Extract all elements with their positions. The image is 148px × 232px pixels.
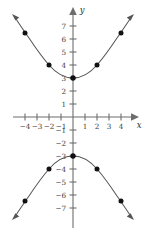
upper-right-arrow-icon <box>127 14 134 21</box>
y-axis-label: y <box>79 5 85 15</box>
x-tick-label-2: 2 <box>95 122 100 131</box>
lower-right-arrow-icon <box>127 213 134 220</box>
y-tick-label--5: −5 <box>55 178 66 187</box>
y-tick-label--6: −6 <box>55 191 66 200</box>
y-tick-label-7: 7 <box>61 22 66 31</box>
y-tick-label-4: 4 <box>61 61 66 70</box>
data-point-upper--4 <box>23 30 28 35</box>
y-tick-label-2: 2 <box>61 87 66 96</box>
x-tick-label--4: −4 <box>20 122 31 131</box>
x-tick-label--3: −3 <box>32 122 43 131</box>
x-axis-group: −4 −3 −2 −1 1 2 3 4 x <box>13 113 142 130</box>
upper-left-arrow-icon <box>12 14 19 21</box>
data-point-lower-vertex <box>70 153 75 158</box>
lower-left-arrow-icon <box>12 213 19 220</box>
data-point-upper-4 <box>119 30 124 35</box>
data-point-upper--2 <box>47 62 52 67</box>
y-tick-label--1: −1 <box>55 126 66 135</box>
graph-canvas: −4 −3 −2 −1 1 2 3 4 x 7 <box>0 0 148 232</box>
data-point-lower--2 <box>47 167 52 172</box>
data-point-lower-2 <box>95 167 100 172</box>
x-tick-label-3: 3 <box>107 122 112 131</box>
hyperbola-graph-figure: −4 −3 −2 −1 1 2 3 4 x 7 <box>0 0 148 232</box>
y-tick-label--4: −4 <box>55 165 66 174</box>
data-point-upper-2 <box>95 62 100 67</box>
x-axis-label: x <box>137 120 142 130</box>
data-point-upper-vertex <box>70 75 75 80</box>
y-tick-label--7: −7 <box>55 204 66 213</box>
data-point-lower--4 <box>23 199 28 204</box>
x-tick-label--2: −2 <box>44 122 55 131</box>
x-tick-label-1: 1 <box>83 122 88 131</box>
y-tick-label--2: −2 <box>55 139 66 148</box>
y-tick-label-1: 1 <box>61 100 66 109</box>
x-tick-label-4: 4 <box>119 122 124 131</box>
y-tick-label-3: 3 <box>61 74 66 83</box>
y-tick-label-6: 6 <box>61 35 66 44</box>
y-axis-arrow-icon <box>69 7 77 15</box>
data-point-lower-4 <box>119 199 124 204</box>
y-tick-label-5: 5 <box>61 48 66 57</box>
